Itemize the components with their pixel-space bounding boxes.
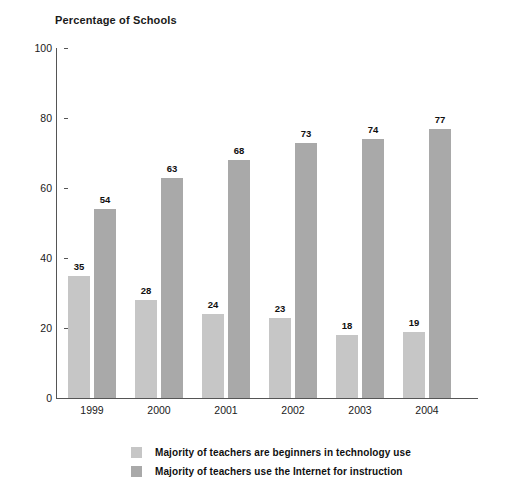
- bar-value-label: 28: [131, 285, 161, 296]
- bar-value-label: 68: [224, 145, 254, 156]
- bar-group: 3554: [68, 48, 116, 398]
- chart-legend: Majority of teachers are beginners in te…: [131, 443, 411, 481]
- bar[interactable]: [429, 129, 451, 399]
- x-axis-tick-label: 2001: [191, 404, 261, 416]
- legend-swatch-icon: [131, 466, 142, 477]
- x-axis-tick-label: 2002: [258, 404, 328, 416]
- bar[interactable]: [295, 143, 317, 399]
- chart-title: Percentage of Schools: [55, 14, 177, 26]
- bar-value-label: 19: [399, 317, 429, 328]
- bar[interactable]: [362, 139, 384, 398]
- bar-value-label: 77: [425, 114, 455, 125]
- y-axis-tick-mark: [64, 398, 68, 399]
- bar[interactable]: [135, 300, 157, 398]
- bar-group: 1874: [336, 48, 384, 398]
- legend-label: Majority of teachers use the Internet fo…: [155, 466, 403, 477]
- x-axis-tick-label: 2000: [124, 404, 194, 416]
- bar[interactable]: [202, 314, 224, 398]
- bar-value-label: 35: [64, 261, 94, 272]
- y-axis-tick-label: 60: [18, 182, 52, 194]
- bar[interactable]: [403, 332, 425, 399]
- x-axis-line: [56, 398, 478, 399]
- bar-value-label: 63: [157, 163, 187, 174]
- x-axis-tick-label: 2004: [392, 404, 462, 416]
- y-axis-tick-label: 100: [18, 42, 52, 54]
- bar[interactable]: [161, 178, 183, 399]
- y-axis-tick-label: 80: [18, 112, 52, 124]
- y-axis-tick-label: 40: [18, 252, 52, 264]
- bar-value-label: 24: [198, 299, 228, 310]
- bar[interactable]: [269, 318, 291, 399]
- y-axis-tick-label: 0: [18, 392, 52, 404]
- bar-group: 1977: [403, 48, 451, 398]
- x-axis-tick-label: 2003: [325, 404, 395, 416]
- x-axis-tick-label: 1999: [57, 404, 127, 416]
- legend-item[interactable]: Majority of teachers are beginners in te…: [131, 443, 411, 462]
- y-axis-tick-label: 20: [18, 322, 52, 334]
- bar[interactable]: [336, 335, 358, 398]
- bar-group: 2468: [202, 48, 250, 398]
- bar-value-label: 54: [90, 194, 120, 205]
- bar-value-label: 74: [358, 124, 388, 135]
- bar-value-label: 18: [332, 320, 362, 331]
- bar-value-label: 73: [291, 128, 321, 139]
- bar-group: 2863: [135, 48, 183, 398]
- bar[interactable]: [94, 209, 116, 398]
- legend-label: Majority of teachers are beginners in te…: [155, 447, 411, 458]
- bar[interactable]: [228, 160, 250, 398]
- bar-value-label: 23: [265, 303, 295, 314]
- bar[interactable]: [68, 276, 90, 399]
- y-axis-tick-labels: 020406080100: [12, 0, 52, 483]
- legend-item[interactable]: Majority of teachers use the Internet fo…: [131, 462, 411, 481]
- bar-chart: Percentage of Schools 020406080100 Major…: [0, 0, 511, 483]
- legend-swatch-icon: [131, 447, 142, 458]
- bar-group: 2373: [269, 48, 317, 398]
